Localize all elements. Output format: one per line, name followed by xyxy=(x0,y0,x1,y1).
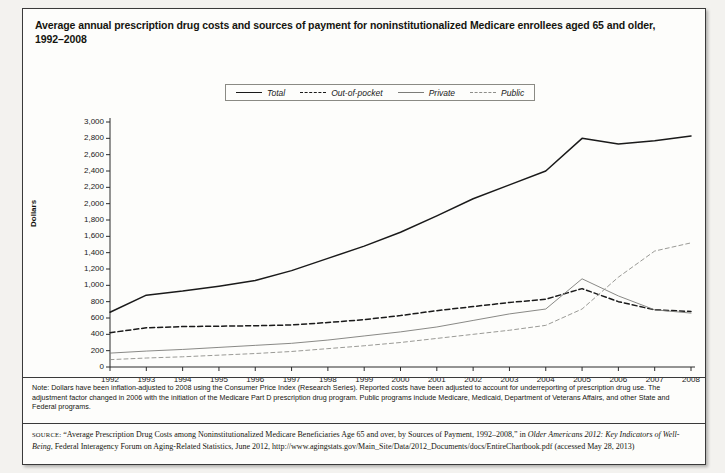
series-line-public xyxy=(110,243,691,360)
chart-page: Average annual prescription drug costs a… xyxy=(0,0,725,473)
source-part1: “Average Prescription Drug Costs among N… xyxy=(61,430,528,439)
note-divider-top xyxy=(23,377,705,378)
series-line-total xyxy=(110,136,691,312)
chart-note: Note: Dollars have been inflation-adjust… xyxy=(32,383,692,412)
source-part2: , Federal Interagency Forum on Aging-Rel… xyxy=(51,442,635,451)
note-divider-bottom xyxy=(23,423,705,424)
source-label: SOURCE: xyxy=(32,431,61,438)
series-line-out-of-pocket xyxy=(110,289,691,333)
chart-source: SOURCE: “Average Prescription Drug Costs… xyxy=(32,429,692,452)
chart-frame: Average annual prescription drug costs a… xyxy=(22,8,706,465)
